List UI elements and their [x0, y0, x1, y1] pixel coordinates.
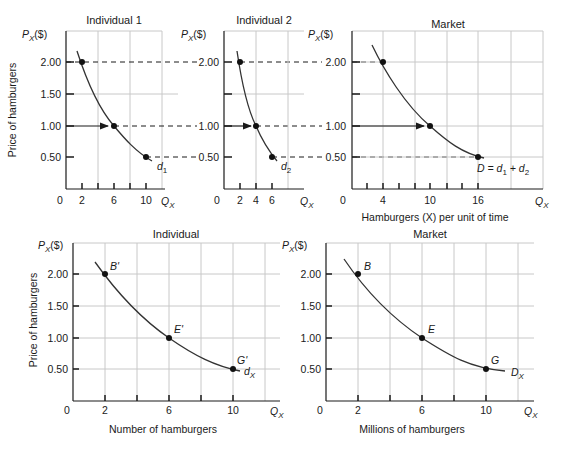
svg-text:0.50: 0.50	[199, 151, 220, 163]
x-axis-label: Number of hamburgers	[109, 423, 217, 435]
x-axis-symbol: QX	[161, 195, 175, 210]
panel-title: Individual	[153, 228, 199, 240]
svg-text:10: 10	[424, 194, 436, 206]
svg-text:2: 2	[102, 404, 108, 416]
svg-text:QX: QX	[524, 405, 538, 420]
point-label-b-prime: B'	[110, 260, 120, 272]
curve-label-d2: d2	[281, 160, 292, 175]
svg-text:1.00: 1.00	[199, 120, 220, 132]
svg-text:1.50: 1.50	[41, 88, 62, 100]
point-label-g: G	[491, 354, 499, 366]
svg-text:0: 0	[64, 404, 70, 416]
curve-label-market: D = d1 + d2	[477, 162, 530, 177]
curve-label-dx: dX	[244, 365, 256, 380]
y-axis-symbol: PX($)	[22, 28, 47, 43]
point-label-e-prime: E'	[174, 323, 184, 335]
curve-label-d1: d1	[157, 160, 168, 175]
panel-market-top: Market D = d1 + d2 0 4 10 16 QX PX($) 2.…	[308, 18, 549, 223]
svg-text:0: 0	[317, 404, 323, 416]
demand-curve-dx	[95, 262, 240, 371]
y-axis-label: Price of hamburgers	[27, 273, 39, 368]
svg-text:4: 4	[380, 194, 386, 206]
connector-lines	[66, 62, 478, 157]
svg-text:2.00: 2.00	[48, 268, 69, 280]
svg-text:1.00: 1.00	[41, 120, 62, 132]
svg-text:0: 0	[57, 194, 63, 206]
point-label-b: B	[364, 260, 371, 272]
svg-text:10: 10	[227, 404, 239, 416]
svg-text:PX($): PX($)	[181, 28, 206, 43]
svg-text:4: 4	[253, 194, 259, 206]
svg-text:PX($): PX($)	[38, 239, 63, 254]
panel-individual-bottom: B' E' G' dX Individual 0 2 6 10 QX PX($)…	[27, 228, 284, 435]
x-axis-label: Hamburgers (X) per unit of time	[361, 211, 508, 223]
svg-text:PX($): PX($)	[308, 28, 333, 43]
panel-market-bottom: B E G DX Market 0 2 6 10 QX PX($) 2.00 1…	[282, 228, 538, 435]
demand-curve-d2	[237, 51, 277, 161]
svg-text:1.50: 1.50	[301, 300, 322, 312]
panel-title: Market	[413, 228, 447, 240]
svg-text:16: 16	[472, 194, 484, 206]
svg-text:0: 0	[214, 194, 220, 206]
svg-text:0.50: 0.50	[41, 151, 62, 163]
point-label-e: E	[428, 323, 436, 335]
svg-text:1.00: 1.00	[301, 332, 322, 344]
demand-curve-d1	[77, 51, 152, 161]
svg-text:2.00: 2.00	[41, 56, 62, 68]
svg-text:6: 6	[111, 194, 117, 206]
svg-text:10: 10	[140, 194, 152, 206]
svg-text:6: 6	[269, 194, 275, 206]
svg-text:QX: QX	[535, 195, 549, 210]
svg-text:1.00: 1.00	[48, 332, 69, 344]
svg-text:QX: QX	[300, 195, 314, 210]
svg-text:2.00: 2.00	[199, 56, 220, 68]
panel-individual-1: Individual 1 d1 0 2 6 10 QX PX($) 2.00 1…	[6, 14, 178, 210]
curve-label-Dx: DX	[511, 366, 525, 381]
svg-text:6: 6	[419, 404, 425, 416]
panel-title: Individual 2	[236, 14, 292, 26]
svg-text:2: 2	[355, 404, 361, 416]
svg-text:1.00: 1.00	[326, 120, 347, 132]
y-axis-label: Price of hamburgers	[6, 63, 18, 158]
svg-text:0: 0	[340, 194, 346, 206]
demand-figure: Individual 1 d1 0 2 6 10 QX PX($) 2.00 1…	[0, 0, 564, 453]
svg-text:6: 6	[166, 404, 172, 416]
svg-text:2: 2	[237, 194, 243, 206]
demand-curve-Dx	[344, 259, 505, 371]
x-axis-label: Millions of hamburgers	[359, 423, 465, 435]
svg-text:PX($): PX($)	[282, 239, 307, 254]
svg-text:QX: QX	[270, 405, 284, 420]
svg-text:0.50: 0.50	[48, 363, 69, 375]
svg-text:0.50: 0.50	[301, 363, 322, 375]
svg-text:2.00: 2.00	[301, 268, 322, 280]
svg-text:2.00: 2.00	[326, 56, 347, 68]
svg-text:0.50: 0.50	[326, 151, 347, 163]
panel-title: Market	[431, 18, 465, 30]
panel-title: Individual 1	[86, 14, 142, 26]
panel-individual-2: Individual 2 d2 0 2 4 6 QX PX($) 2.00 1.…	[181, 14, 314, 210]
svg-text:1.50: 1.50	[48, 300, 69, 312]
svg-text:10: 10	[480, 404, 492, 416]
svg-text:2: 2	[79, 194, 85, 206]
